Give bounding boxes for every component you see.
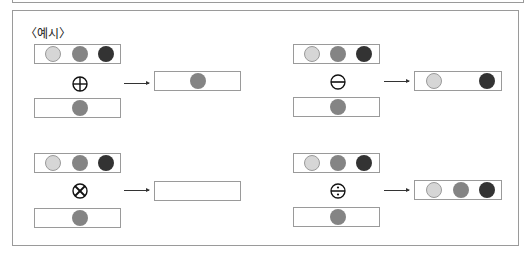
mid-circle — [72, 210, 88, 226]
light-circle — [45, 46, 61, 62]
example2-result — [414, 71, 502, 91]
mid-circle — [72, 46, 88, 62]
example1-input-b — [34, 98, 121, 118]
mid-circle — [72, 155, 88, 171]
example4-result — [414, 180, 502, 200]
example4-input-b — [293, 207, 380, 227]
example4-input-a — [293, 153, 380, 173]
mid-circle — [330, 209, 346, 225]
example1-input-a — [34, 44, 121, 64]
arrow-icon — [124, 83, 149, 84]
example1-result — [154, 71, 241, 91]
dark-circle — [98, 46, 114, 62]
minus-circle-icon — [330, 74, 346, 90]
dark-circle — [98, 155, 114, 171]
dark-circle — [479, 182, 495, 198]
dark-circle — [356, 155, 372, 171]
light-circle — [426, 73, 442, 89]
light-circle — [304, 46, 320, 62]
arrow-icon — [384, 190, 409, 191]
example3-input-a — [34, 153, 121, 173]
example2-input-a — [293, 44, 380, 64]
light-circle — [45, 155, 61, 171]
dark-circle — [479, 73, 495, 89]
times-circle-icon — [72, 183, 88, 199]
mid-circle — [330, 99, 346, 115]
example-label: 〈예시〉 — [25, 24, 71, 41]
mid-circle — [330, 46, 346, 62]
mid-circle — [453, 182, 469, 198]
divide-circle-icon — [330, 183, 346, 199]
mid-circle — [330, 155, 346, 171]
mid-circle — [72, 100, 88, 116]
mid-circle — [190, 73, 206, 89]
dark-circle — [356, 46, 372, 62]
example2-input-b — [293, 97, 380, 117]
example3-result-empty — [154, 181, 241, 201]
arrow-icon — [124, 190, 149, 191]
light-circle — [304, 155, 320, 171]
light-circle — [426, 182, 442, 198]
plus-circle-icon — [72, 76, 88, 92]
previous-section-border — [12, 0, 524, 3]
example3-input-b — [34, 208, 121, 228]
arrow-icon — [384, 81, 409, 82]
